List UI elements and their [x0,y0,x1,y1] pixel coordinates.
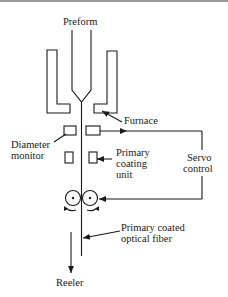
roller-left-axis [72,197,74,199]
servo-top-arrow-icon [120,128,127,134]
furnace-label: Furnace [124,115,158,126]
diameter-monitor-label-2: monitor [11,150,44,161]
diameter-monitor-left-box [64,126,76,135]
furnace-right-wall [94,51,117,113]
roller-right-axis [89,197,91,199]
diameter-monitor-label-1: Diameter [11,139,50,150]
diameter-monitor-right-box [86,126,100,135]
rotation-arrow-right-icon [87,208,97,211]
rotation-arrow-left-icon [66,208,76,211]
fiber-label-1: Primary coated [121,222,185,233]
servo-control-label-1: Servo [187,152,212,163]
coating-unit-left-box [65,152,73,163]
servo-control-label-2: control [183,163,213,174]
primary-coating-label-1: Primary [116,147,150,158]
primary-coating-label-2: coating [116,158,147,169]
diameter-monitor-leader [54,134,66,142]
furnace-left-wall [47,50,70,113]
fiber-label-2: optical fiber [121,233,172,244]
primary-coating-label-3: unit [116,169,132,180]
fiber-drawing-diagram: Preform Furnace Diameter monitor Primary… [0,0,228,297]
preform-shape [72,30,91,102]
preform-label: Preform [63,16,97,27]
fiber-leader [83,231,120,238]
reeler-label: Reeler [56,277,83,288]
coating-unit-right-box [89,152,97,163]
